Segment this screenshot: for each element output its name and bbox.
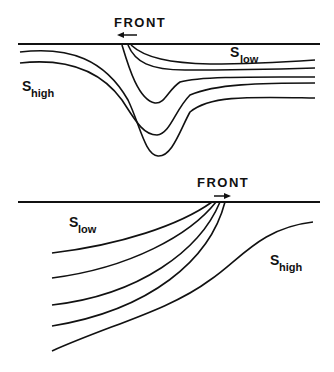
top-isoline-2 xyxy=(20,62,315,135)
svg-text:S: S xyxy=(22,78,31,94)
top-s-low-label: S low xyxy=(230,44,259,65)
svg-text:high: high xyxy=(31,87,54,99)
svg-text:S: S xyxy=(69,214,78,230)
right-arrow-icon xyxy=(214,193,231,199)
svg-text:low: low xyxy=(78,223,97,235)
svg-text:low: low xyxy=(240,53,259,65)
left-arrow-icon xyxy=(117,32,137,38)
svg-text:S: S xyxy=(230,44,239,60)
top-isoline-5 xyxy=(131,45,315,64)
top-isoline-1 xyxy=(20,51,315,156)
top-s-high-label: S high xyxy=(22,78,54,99)
top-isoline-3 xyxy=(122,45,315,103)
bottom-front-label: FRONT xyxy=(197,175,249,190)
svg-text:S: S xyxy=(270,252,279,268)
top-front-label: FRONT xyxy=(114,15,166,30)
bottom-s-low-label: S low xyxy=(69,214,97,235)
bottom-s-high-label: S high xyxy=(270,252,302,273)
bottom-panel: FRONT S low S high xyxy=(18,175,320,351)
front-diagram: FRONT S low S high FRONT xyxy=(0,0,334,372)
svg-text:high: high xyxy=(279,261,302,273)
top-panel: FRONT S low S high xyxy=(18,15,320,156)
bottom-isoline-5 xyxy=(52,222,313,351)
